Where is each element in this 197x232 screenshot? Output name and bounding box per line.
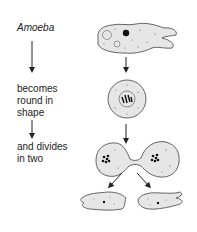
- amoeba-division-diagram: [0, 0, 197, 232]
- amoeba-round: [108, 80, 146, 118]
- amoeba-initial: [98, 23, 176, 53]
- amoeba-daughter-left: [81, 192, 126, 210]
- arrow-to-daughter-right: [137, 173, 149, 186]
- nucleus-icon: [123, 30, 129, 36]
- amoeba-daughter-right: [138, 192, 182, 209]
- amoeba-dividing: [96, 142, 179, 177]
